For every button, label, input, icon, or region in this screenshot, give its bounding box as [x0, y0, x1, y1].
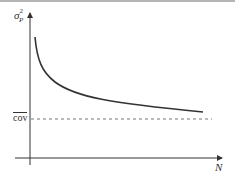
variance-curve — [35, 37, 203, 112]
variance-diagram — [0, 0, 235, 178]
y-axis-label: σ2P — [14, 9, 27, 24]
x-axis-label: N — [215, 162, 222, 173]
asymptote-label: cov — [13, 112, 27, 122]
